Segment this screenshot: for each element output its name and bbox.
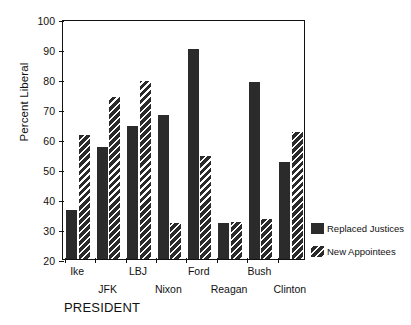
y-tick-mark <box>59 21 64 22</box>
legend-label: Replaced Justices <box>327 223 404 234</box>
x-tick-mark <box>95 258 96 263</box>
bar-reagan-new <box>231 222 242 260</box>
bar-ford-replaced <box>188 49 199 259</box>
x-label-clinton: Clinton <box>260 283 320 295</box>
chart-legend: Replaced JusticesNew Appointees <box>311 222 411 268</box>
y-tick-mark <box>59 231 64 232</box>
bar-lbj-new <box>140 81 151 260</box>
bar-ike-replaced <box>66 210 77 260</box>
bar-bush-replaced <box>249 82 260 259</box>
x-label-bush: Bush <box>229 265 289 277</box>
y-tick-label: 40 <box>27 196 55 206</box>
bar-ford-new <box>200 156 211 260</box>
bar-chart: Percent Liberal 2030405060708090100 IkeJ… <box>0 0 411 325</box>
bar-clinton-replaced <box>279 162 290 260</box>
x-label-jfk: JFK <box>78 283 138 295</box>
y-tick-label: 30 <box>27 226 55 236</box>
x-label-lbj: LBJ <box>108 265 168 277</box>
plot-area: 2030405060708090100 <box>62 20 305 260</box>
y-tick-mark <box>59 171 64 172</box>
bar-nixon-new <box>170 223 181 259</box>
x-label-reagan: Reagan <box>199 283 259 295</box>
y-tick-label: 100 <box>27 16 55 26</box>
legend-label: New Appointees <box>327 246 396 257</box>
legend-swatch-replaced <box>311 223 324 234</box>
y-tick-mark <box>59 201 64 202</box>
bar-clinton-new <box>292 132 303 260</box>
x-tick-mark <box>65 258 66 263</box>
y-tick-mark <box>59 261 64 262</box>
x-tick-mark <box>278 258 279 263</box>
legend-item[interactable]: New Appointees <box>311 245 411 257</box>
x-label-nixon: Nixon <box>138 283 198 295</box>
y-tick-label: 60 <box>27 136 55 146</box>
y-tick-mark <box>59 141 64 142</box>
legend-swatch-new <box>311 246 324 257</box>
x-tick-mark <box>247 258 248 263</box>
bar-nixon-replaced <box>158 115 169 259</box>
x-tick-mark <box>217 258 218 263</box>
y-tick-mark <box>59 111 64 112</box>
bar-lbj-replaced <box>127 126 138 260</box>
bar-reagan-replaced <box>218 223 229 259</box>
y-tick-label: 80 <box>27 76 55 86</box>
bar-jfk-replaced <box>97 147 108 260</box>
x-label-ford: Ford <box>169 265 229 277</box>
x-tick-mark <box>126 258 127 263</box>
x-axis-title: PRESIDENT <box>64 300 140 315</box>
y-tick-mark <box>59 51 64 52</box>
x-tick-mark <box>156 258 157 263</box>
y-tick-label: 90 <box>27 46 55 56</box>
x-label-ike: Ike <box>47 265 107 277</box>
y-tick-label: 70 <box>27 106 55 116</box>
bar-jfk-new <box>109 97 120 259</box>
legend-item[interactable]: Replaced Justices <box>311 222 411 234</box>
y-tick-label: 50 <box>27 166 55 176</box>
x-tick-mark <box>186 258 187 263</box>
bar-bush-new <box>261 219 272 260</box>
y-tick-mark <box>59 81 64 82</box>
bar-ike-new <box>79 135 90 260</box>
